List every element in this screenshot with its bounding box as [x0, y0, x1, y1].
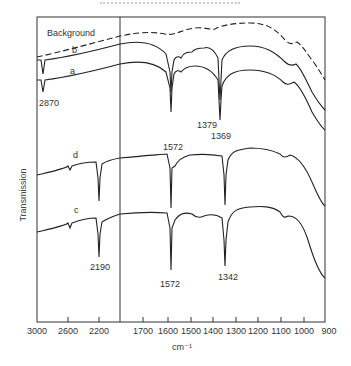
x-ticks [68, 317, 304, 322]
tick-label: 1200 [248, 327, 268, 336]
tick-label: 2200 [89, 327, 109, 336]
plot-frame [37, 17, 325, 322]
series-b [37, 42, 325, 110]
series-a [37, 62, 325, 130]
tick-label: 1000 [294, 327, 314, 336]
peak-1572-top: 1572 [163, 143, 183, 152]
series-d [37, 148, 325, 208]
tick-label: 1600 [158, 327, 178, 336]
series-c [37, 207, 325, 278]
label-background: Background [47, 29, 95, 38]
peak-2870: 2870 [39, 99, 59, 108]
tick-label: 1300 [226, 327, 246, 336]
tick-label: 3000 [27, 327, 47, 336]
peak-1369: 1369 [211, 132, 231, 141]
ir-spectrum-plot [0, 0, 351, 366]
peak-1572-bottom: 1572 [160, 280, 180, 289]
peak-1379: 1379 [197, 121, 217, 130]
tick-label: 1400 [203, 327, 223, 336]
tick-label: 1100 [271, 327, 290, 336]
peak-1342: 1342 [218, 273, 238, 282]
peak-2190: 2190 [90, 263, 110, 272]
label-c: c [74, 206, 79, 215]
label-d: d [73, 151, 78, 160]
label-a: a [70, 67, 75, 76]
tick-label: 2600 [58, 327, 78, 336]
tick-label: 1700 [133, 327, 153, 336]
tick-label: 900 [321, 327, 336, 336]
tick-label: 1500 [181, 327, 201, 336]
label-b: b [72, 46, 77, 55]
y-axis-label: Transmission [18, 168, 28, 221]
x-axis-label: cm⁻¹ [172, 343, 192, 352]
